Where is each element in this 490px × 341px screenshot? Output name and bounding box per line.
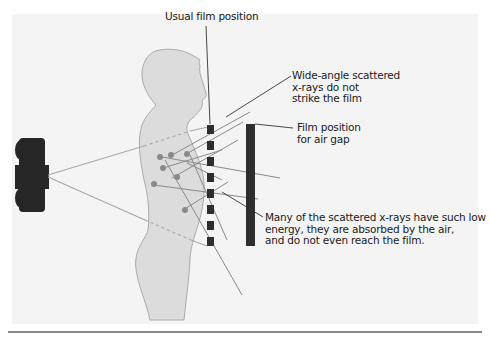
absorbed-line-3: and do not even reach the film. [265,235,486,247]
air-gap-line-2: for air gap [297,134,361,146]
usual-film-segments [207,125,214,246]
wide-angle-line-1: Wide-angle scattered [292,70,400,82]
xray-tube-icon [15,138,49,212]
patient-silhouette [136,49,207,320]
usual-film-position-text: Usual film position [165,11,258,23]
usual-film-position-label: Usual film position [165,11,258,23]
air-gap-line-1: Film position [297,122,361,134]
wide-angle-scatter-label: Wide-angle scattered x-rays do not strik… [292,70,400,105]
air-gap-diagram [0,0,490,341]
air-gap-film-label: Film position for air gap [297,122,361,145]
air-gap-film [246,124,255,246]
absorbed-line-1: Many of the scattered x-rays have such l… [265,212,486,224]
absorbed-scatter-label: Many of the scattered x-rays have such l… [265,212,486,247]
bottom-divider [8,331,482,333]
wide-angle-line-3: strike the film [292,93,400,105]
